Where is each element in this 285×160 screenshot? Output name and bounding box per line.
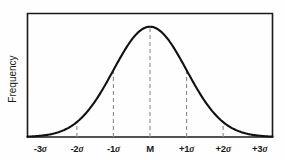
xtick-label-minus2: -2σ [70, 143, 84, 154]
xtick-label-minus1: -1σ [107, 143, 121, 154]
xtick-label-minus3: -3σ [34, 143, 48, 154]
normal-distribution-figure: -3σ-2σ-1σM+1σ+2σ+3σ Frequency [0, 0, 285, 160]
y-axis-label: Frequency [7, 55, 18, 102]
xtick-label-mean: M [146, 143, 154, 154]
xtick-label-plus2: +2σ [215, 143, 231, 154]
xtick-label-plus3: +3σ [252, 143, 268, 154]
chart-canvas: -3σ-2σ-1σM+1σ+2σ+3σ Frequency [0, 0, 285, 160]
xtick-label-plus1: +1σ [179, 143, 195, 154]
